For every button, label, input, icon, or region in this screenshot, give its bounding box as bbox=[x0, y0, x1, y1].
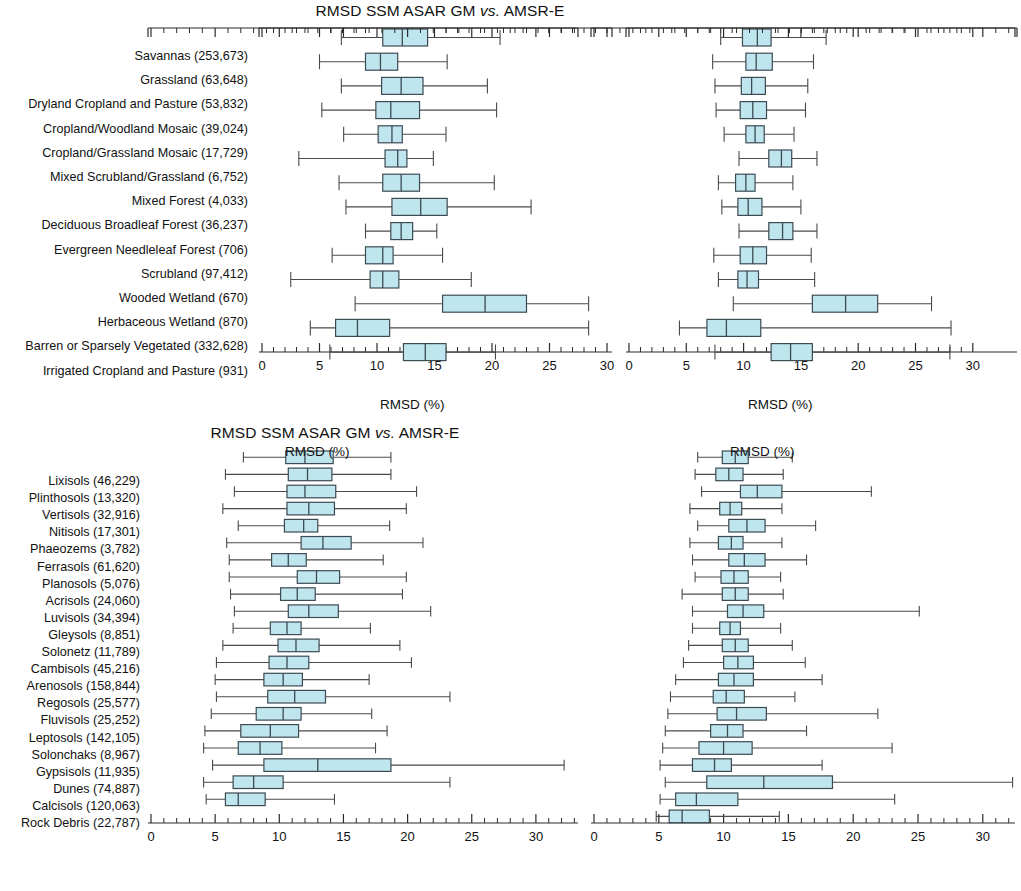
boxplot-item bbox=[299, 150, 434, 167]
boxplot-item bbox=[702, 485, 872, 498]
boxplot-item bbox=[668, 708, 878, 721]
x-axis-label-bottom-left: RMSD (%) bbox=[285, 444, 350, 459]
boxplot-item bbox=[698, 519, 816, 532]
boxplot-item bbox=[713, 53, 814, 70]
boxplot-canvas bbox=[590, 420, 1021, 891]
x-axis-label-top-right: RMSD (%) bbox=[748, 397, 813, 412]
boxplot-item bbox=[339, 174, 494, 191]
boxplot-item bbox=[695, 468, 783, 481]
boxplot-item bbox=[682, 588, 783, 601]
boxplot-item bbox=[216, 656, 411, 669]
boxplot-item bbox=[322, 102, 497, 119]
boxplot-item bbox=[739, 150, 817, 167]
boxplot-item bbox=[227, 537, 423, 550]
boxplot-item bbox=[332, 247, 442, 264]
figure-root: RMSD SSM ASAR GM vs. AMSR-E Savannas (25… bbox=[0, 0, 1021, 891]
boxplot-item bbox=[715, 344, 950, 361]
boxplot-item bbox=[229, 571, 406, 584]
boxplot-item bbox=[213, 759, 565, 772]
boxplot-item bbox=[660, 793, 895, 806]
boxplot-item bbox=[692, 554, 806, 567]
boxplot-item bbox=[665, 776, 1012, 789]
boxplot-item bbox=[722, 198, 801, 215]
boxplot-item bbox=[204, 742, 376, 755]
boxplot-item bbox=[683, 656, 805, 669]
boxplot-item bbox=[718, 174, 792, 191]
boxplot-item bbox=[225, 468, 391, 481]
boxplot-item bbox=[223, 502, 406, 515]
boxplot-item bbox=[656, 810, 779, 823]
boxplot-item bbox=[229, 554, 383, 567]
boxplot-item bbox=[714, 247, 811, 264]
x-axis-label-bottom-right: RMSD (%) bbox=[730, 444, 795, 459]
boxplot-item bbox=[205, 725, 387, 738]
plot-area-top-right: 051015202530 bbox=[620, 0, 1021, 415]
boxplot-item bbox=[689, 639, 793, 652]
plot-area-bottom-right: 051015202530 bbox=[590, 420, 1021, 891]
boxplot-item bbox=[310, 319, 588, 336]
boxplot-item bbox=[344, 126, 446, 143]
boxplot-item bbox=[660, 759, 822, 772]
boxplot-item bbox=[216, 690, 450, 703]
boxplot-item bbox=[233, 622, 370, 635]
boxplot-item bbox=[690, 502, 782, 515]
boxplot-item bbox=[692, 622, 780, 635]
boxplot-item bbox=[676, 673, 822, 686]
boxplot-item bbox=[715, 77, 808, 94]
boxplot-item bbox=[234, 485, 416, 498]
boxplot-item bbox=[724, 126, 794, 143]
boxplot-item bbox=[739, 223, 817, 240]
boxplot-item bbox=[204, 776, 450, 789]
plot-area-bottom-left: 051015202530 bbox=[0, 420, 600, 891]
boxplot-canvas bbox=[620, 0, 1021, 415]
boxplot-item bbox=[346, 198, 531, 215]
boxplot-item bbox=[238, 519, 389, 532]
boxplot-item bbox=[330, 344, 496, 361]
panel-top-right: RMSD SSM ASAR GM vs. GLDAS 051015202530 … bbox=[620, 0, 1021, 415]
boxplot-item bbox=[231, 588, 403, 601]
boxplot-item bbox=[690, 537, 782, 550]
boxplot-item bbox=[716, 102, 805, 119]
boxplot-item bbox=[291, 271, 472, 288]
boxplot-item bbox=[692, 605, 919, 618]
boxplot-item bbox=[223, 639, 400, 652]
boxplot-item bbox=[211, 708, 371, 721]
panel-bottom-right: RMSD SSM ASAR GM vs. GLDAS 051015202530 … bbox=[590, 420, 1021, 891]
boxplot-item bbox=[718, 271, 814, 288]
boxplot-item bbox=[355, 295, 588, 312]
boxplot-item bbox=[215, 673, 369, 686]
boxplot-canvas bbox=[0, 0, 620, 415]
plot-area-top-left: 051015202530 bbox=[0, 0, 620, 415]
panel-top-left: RMSD SSM ASAR GM vs. AMSR-E Savannas (25… bbox=[0, 0, 620, 415]
boxplot-item bbox=[679, 319, 951, 336]
boxplot-item bbox=[366, 223, 437, 240]
boxplot-item bbox=[670, 690, 794, 703]
boxplot-item bbox=[695, 571, 781, 584]
boxplot-item bbox=[341, 77, 487, 94]
boxplot-item bbox=[206, 793, 334, 806]
boxplot-item bbox=[665, 725, 806, 738]
panel-bottom-left: RMSD SSM ASAR GM vs. AMSR-E Lixisols (46… bbox=[0, 420, 600, 891]
boxplot-item bbox=[663, 742, 892, 755]
x-axis-label-top-left: RMSD (%) bbox=[380, 397, 445, 412]
boxplot-item bbox=[733, 295, 931, 312]
boxplot-item bbox=[234, 605, 430, 618]
boxplot-canvas bbox=[0, 420, 600, 891]
boxplot-item bbox=[320, 53, 448, 70]
